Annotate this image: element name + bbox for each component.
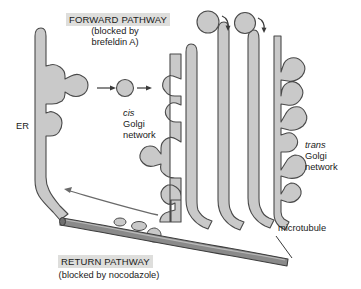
secretory-vesicle-2 [235,13,256,34]
trans-golgi-network [274,36,307,230]
cis-line-3: network [123,130,156,140]
forward-pathway-heading: FORWARD PATHWAY [66,13,170,26]
return-vesicle-1 [114,218,126,226]
cis-emphasis: cis [123,108,134,118]
trans-emphasis: trans [305,140,326,150]
golgi-cisterna-2 [186,44,212,229]
budding-arrow-2 [258,18,267,33]
secretory-vesicle-1 [197,11,219,33]
forward-note-line-1: (blocked by [91,26,139,36]
return-vesicle-2 [132,222,147,231]
golgi-cisterna-3 [218,22,244,230]
forward-arrow-2 [137,86,152,91]
return-pathway-heading: RETURN PATHWAY [58,255,153,268]
golgi-cisterna-4 [248,30,274,228]
trans-line-3: network [305,162,338,172]
microtubule-leader-line [276,236,292,258]
return-pathway-note: (blocked by nocodazole) [45,270,173,281]
trans-golgi-network-label: transGolginetwork [305,140,338,173]
cis-golgi-network-label: cisGolginetwork [123,108,156,141]
figure-canvas: FORWARD PATHWAY (blocked bybrefeldin A) … [0,0,361,289]
endoplasmic-reticulum [35,28,88,220]
return-pathway-arrow [64,187,158,215]
forward-pathway-note: (blocked bybrefeldin A) [63,26,167,48]
forward-note-line-2: brefeldin A) [91,37,138,47]
trans-line-2: Golgi [305,151,327,161]
cis-line-2: Golgi [123,119,145,129]
microtubule-label: microtubule [278,223,326,234]
forward-arrow-1 [97,86,116,91]
er-label: ER [16,121,29,132]
transport-vesicle-forward [117,80,134,97]
